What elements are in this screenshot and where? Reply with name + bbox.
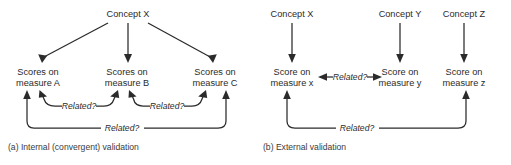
panel-b-relation-xy: Related?: [318, 72, 382, 82]
arrow-concept-to-measure-b: [124, 23, 132, 63]
panel-a-caption: (a) Internal (convergent) validation: [8, 142, 139, 152]
panel-b-concept-z-label: Concept Z: [443, 9, 486, 19]
arrow-concept-to-measure-c: [148, 23, 217, 63]
panel-a-relation-ab-label: Related?: [62, 101, 97, 111]
panel-a-relation-bc: Related?: [129, 90, 208, 111]
panel-b-relation-xz: Related?: [283, 90, 470, 133]
panel-a: Concept X Scores on measure A: [8, 9, 238, 152]
arrow-concept-y-to-measure-y: [396, 23, 404, 63]
panel-b-measure-y-line2: measure y: [379, 78, 422, 88]
panel-a-concept-label: Concept X: [107, 9, 150, 19]
panel-a-measure-a: Scores on measure A: [16, 67, 61, 88]
panel-a-measure-c: Scores on measure C: [193, 67, 238, 88]
validation-figure: Concept X Scores on measure A: [0, 0, 511, 165]
panel-b-relation-xy-label: Related?: [333, 72, 368, 82]
panel-a-relation-bc-label: Related?: [150, 101, 185, 111]
panel-b-measure-z: Score on measure z: [443, 67, 486, 88]
panel-b-measure-z-line2: measure z: [443, 78, 486, 88]
panel-b-measure-y-line1: Score on: [382, 67, 419, 77]
panel-b-relation-xz-label: Related?: [340, 123, 375, 133]
arrow-concept-x-to-measure-x: [288, 23, 296, 63]
panel-a-measure-b: Scores on measure B: [105, 67, 149, 88]
panel-a-measure-a-line2: measure A: [16, 78, 61, 88]
panel-b-concept-y-label: Concept Y: [379, 9, 422, 19]
panel-b-measure-x: Score on measure x: [271, 67, 314, 88]
panel-b-concept-x-label: Concept X: [271, 9, 314, 19]
panel-b-measure-x-line2: measure x: [271, 78, 314, 88]
panel-b-measure-x-line1: Score on: [274, 67, 311, 77]
panel-a-relation-ac-label: Related?: [105, 123, 140, 133]
panel-a-measure-b-line1: Scores on: [106, 67, 147, 77]
panel-b: Concept X Concept Y Concept Z Score on m…: [263, 9, 486, 152]
panel-b-caption: (b) External validation: [263, 142, 346, 152]
arrow-concept-z-to-measure-z: [460, 23, 468, 63]
panel-a-measure-b-line2: measure B: [105, 78, 149, 88]
panel-b-measure-y: Score on measure y: [379, 67, 422, 88]
panel-a-relation-ab: Related?: [39, 90, 119, 111]
panel-a-measure-a-line1: Scores on: [17, 67, 58, 77]
panel-a-measure-c-line1: Scores on: [194, 67, 235, 77]
panel-a-measure-c-line2: measure C: [193, 78, 238, 88]
panel-b-measure-z-line1: Score on: [446, 67, 483, 77]
arrow-concept-to-measure-a: [38, 23, 108, 63]
